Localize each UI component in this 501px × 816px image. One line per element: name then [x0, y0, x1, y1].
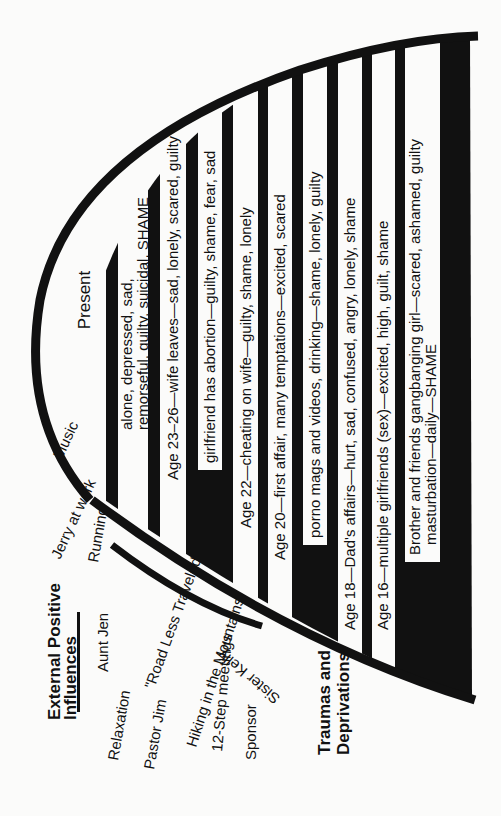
strip-present-line-2: remorseful, guilty, suicidal, SHAME [134, 197, 151, 430]
strip-age-16: Age 16—multiple girlfriends (sex)—excite… [374, 221, 391, 630]
influence-pastor-jim: Pastor Jim [140, 698, 169, 771]
strip-present-line-1: alone, depressed, sad, [118, 278, 135, 430]
traumas-title-line-1: Traumas and [315, 650, 334, 755]
strip-age-18: Age 18—Dad's affairs—hurt, sad, confused… [341, 198, 358, 630]
influence-aunt-jen: Aunt Jen [94, 613, 111, 672]
influences-title-line-2: Influences [61, 636, 80, 720]
strip-porno: porno mags and videos, drinking—shame, l… [306, 171, 323, 538]
strip-age-20: Age 20—first affair, many temptations—ex… [271, 194, 288, 560]
strip-childhood-line-1: Brother and friends gangbanging girl—sca… [406, 138, 423, 555]
strip-age-23-26: Age 23–26—wife leaves—sad, lonely, scare… [164, 135, 181, 480]
influence-relaxation: Relaxation [104, 689, 133, 762]
influence-running: Running [84, 506, 110, 564]
strip-girlfriend-abortion: girlfriend has abortion—guilty, shame, f… [201, 151, 218, 463]
strip-age-22: Age 22—cheating on wife—guilty, shame, l… [237, 207, 254, 528]
strip-childhood-line-2: masturbation—daily—SHAME [422, 344, 439, 545]
influence-sponsor: Sponsor [242, 704, 259, 760]
traumas-title-line-2: Deprivations [334, 652, 353, 755]
trauma-diagram: Present alone, depressed, sad, remorsefu… [0, 0, 501, 816]
present-label: Present [75, 270, 94, 329]
